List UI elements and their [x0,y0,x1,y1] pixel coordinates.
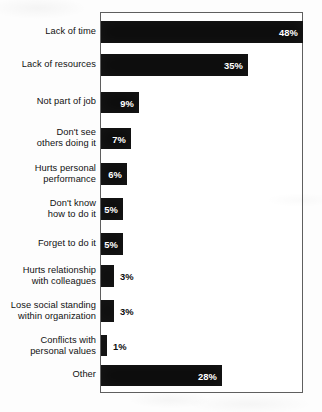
category-label: Conflicts with personal values [30,335,96,357]
bar-value-label: 3% [120,306,134,317]
chart-rows: Lack of time48%Lack of resources35%Not p… [0,0,322,412]
bar-track: 5% [101,233,163,255]
bar-row: Don't know how to do it5% [0,198,322,220]
bar-value-label: 5% [104,204,118,215]
bar: 48% [101,21,303,43]
bar-value-label: 28% [198,370,217,381]
bar [101,265,114,287]
category-label: Hurts relationship with colleagues [23,265,96,287]
category-label: Lack of time [45,26,96,37]
bar-row: Lack of resources35% [0,54,322,76]
bar-track: 3% [101,265,154,287]
bar: 35% [101,54,248,76]
bar-row: Other28% [0,365,322,386]
bar: 7% [101,128,131,149]
bar-row: Hurts personal performance6% [0,163,322,185]
bar: 5% [101,233,123,255]
bar-track: 35% [101,54,288,76]
bar-row: Forget to do it5% [0,233,322,255]
bar: 9% [101,92,139,113]
bar-row: Lose social standing within organization… [0,300,322,322]
category-label: Lack of resources [22,59,96,70]
category-label: Not part of job [37,96,96,107]
bar: 5% [101,198,123,220]
category-label: Lose social standing within organization [11,300,96,322]
bar-value-label: 48% [279,27,298,38]
bar [101,335,107,356]
category-label: Forget to do it [38,238,96,249]
bar-row: Not part of job9% [0,92,322,113]
bar-row: Don't see others doing it7% [0,128,322,149]
bar-track: 7% [101,128,171,149]
bar-value-label: 6% [108,169,122,180]
bar-row: Conflicts with personal values1% [0,335,322,356]
bar-value-label: 7% [112,133,126,144]
bar-track: 3% [101,300,154,322]
bar: 28% [101,365,222,386]
category-label: Other [72,369,96,380]
bar-value-label: 9% [120,97,134,108]
bar-value-label: 3% [120,271,134,282]
bar-value-label: 5% [104,239,118,250]
bar-track: 48% [101,21,322,43]
bar-value-label: 35% [224,60,243,71]
bar-row: Lack of time48% [0,21,322,43]
category-label: Don't know how to do it [48,198,96,220]
bar-track: 28% [101,365,262,386]
bar-value-label: 1% [113,340,127,351]
category-label: Don't see others doing it [37,127,96,149]
category-label: Hurts personal performance [35,163,96,185]
bar [101,300,114,322]
bar-track: 1% [101,335,147,356]
bar-chart: Lack of time48%Lack of resources35%Not p… [0,0,322,412]
bar: 6% [101,163,127,185]
bar-track: 5% [101,198,163,220]
bar-row: Hurts relationship with colleagues3% [0,265,322,287]
bar-track: 9% [101,92,179,113]
bar-track: 6% [101,163,167,185]
